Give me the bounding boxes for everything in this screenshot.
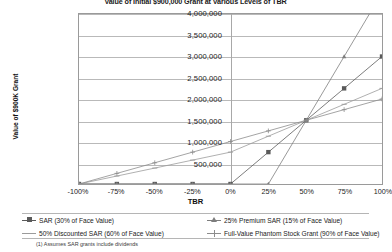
legend-row-2: 50% Discounted SAR (60% of Face Value)Fu… bbox=[22, 227, 369, 240]
chart-legend: SAR (30% of Face Value)25% Premium SAR (… bbox=[22, 213, 369, 239]
x-tick-label: 100% bbox=[374, 187, 392, 196]
legend-item[interactable]: 50% Discounted SAR (60% of Face Value) bbox=[22, 227, 164, 240]
legend-label: Full-Value Phantom Stock Grant (90% of F… bbox=[224, 230, 380, 237]
y-tick-label: 4,000,000 bbox=[187, 9, 222, 18]
legend-item[interactable]: 25% Premium SAR (15% of Face Value) bbox=[207, 214, 342, 227]
x-tick-label: -25% bbox=[184, 187, 201, 196]
y-tick-labels: 500,0001,000,0001,500,0002,000,0002,500,… bbox=[78, 13, 383, 185]
y-tick-label: 1,500,000 bbox=[187, 116, 222, 125]
y-axis-title: Value of $900K Grant bbox=[12, 64, 19, 150]
y-tick-label: 3,000,000 bbox=[187, 52, 222, 61]
x-tick-label: -50% bbox=[146, 187, 163, 196]
x-tick-label: 75% bbox=[338, 187, 352, 196]
legend-item[interactable]: Full-Value Phantom Stock Grant (90% of F… bbox=[207, 227, 380, 240]
y-tick-label: 2,000,000 bbox=[187, 95, 222, 104]
footnote: (1) Assumes SAR grants include dividends bbox=[36, 241, 138, 247]
legend-marker-icon bbox=[22, 216, 36, 225]
x-tick-label: -75% bbox=[108, 187, 125, 196]
legend-marker-icon bbox=[22, 229, 36, 238]
legend-label: 50% Discounted SAR (60% of Face Value) bbox=[39, 230, 164, 237]
x-tick-label: 50% bbox=[300, 187, 314, 196]
x-tick-label: 25% bbox=[261, 187, 275, 196]
legend-marker-icon bbox=[207, 229, 221, 238]
legend-row-1: SAR (30% of Face Value)25% Premium SAR (… bbox=[22, 214, 369, 227]
chart-title: Value of Initial $900,000 Grant at Vario… bbox=[0, 0, 391, 6]
y-tick-label: 2,500,000 bbox=[187, 73, 222, 82]
x-tick-label: 0% bbox=[225, 187, 235, 196]
y-tick-label: 3,500,000 bbox=[187, 30, 222, 39]
x-axis-title: TBR bbox=[0, 197, 391, 206]
legend-label: SAR (30% of Face Value) bbox=[39, 217, 114, 224]
x-tick-label: -100% bbox=[68, 187, 89, 196]
legend-label: 25% Premium SAR (15% of Face Value) bbox=[224, 217, 342, 224]
y-tick-label: 1,000,000 bbox=[187, 138, 222, 147]
legend-item[interactable]: SAR (30% of Face Value) bbox=[22, 214, 114, 227]
y-tick-label: 500,000 bbox=[194, 159, 222, 168]
legend-marker-icon bbox=[207, 216, 221, 225]
